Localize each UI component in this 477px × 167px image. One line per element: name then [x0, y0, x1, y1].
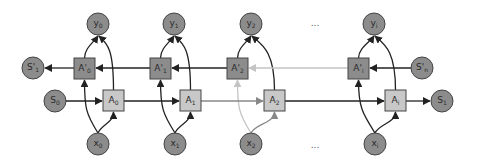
edge-forward-to-output	[99, 36, 114, 90]
edge-input-to-forward	[251, 112, 275, 133]
input-node-x2: x2	[240, 133, 262, 155]
bidirectional-rnn-diagram: y0A'0A0x0y1A'1A1x1y2A'2A2x2yiA'iAixiS'1S…	[0, 0, 477, 167]
edge-forward-to-output	[252, 36, 275, 90]
edge-backward-to-output	[359, 36, 375, 58]
state-node-s-prime-n: S'n	[411, 57, 433, 79]
output-node-y0: y0	[87, 13, 109, 35]
output-node-y1: y1	[163, 13, 185, 35]
edges-layer	[45, 36, 430, 133]
ellipsis-0: ...	[311, 18, 320, 28]
output-node-y2: y2	[240, 13, 262, 35]
edge-input-to-forward	[175, 112, 191, 133]
ellipsis-1: ...	[311, 140, 320, 150]
backward-cell-a-prime2: A'2	[227, 58, 248, 79]
edge-input-to-forward	[98, 112, 114, 133]
input-node-x0: x0	[87, 133, 109, 155]
state-node-s0: S0	[44, 90, 66, 112]
forward-cell-a0: A0	[103, 90, 124, 111]
edge-backward-to-output	[161, 36, 175, 58]
edge-input-to-backward	[161, 80, 176, 133]
edge-input-to-backward	[85, 80, 99, 133]
input-node-x1: x1	[164, 133, 186, 155]
backward-cell-a-prime0: A'0	[74, 58, 95, 79]
edge-forward-to-output	[375, 36, 396, 90]
edge-input-to-backward	[238, 80, 252, 133]
output-node-yi: yi	[363, 13, 385, 35]
edge-backward-to-output	[238, 36, 252, 58]
diagram-canvas: y0A'0A0x0y1A'1A1x1y2A'2A2x2yiA'iAixiS'1S…	[0, 0, 477, 167]
backward-cell-a-primei: A'i	[348, 58, 369, 79]
state-node-s-prime-1: S'1	[22, 57, 44, 79]
state-node-s1: S1	[431, 90, 453, 112]
edge-input-to-backward	[359, 80, 376, 133]
input-node-xi: xi	[364, 133, 386, 155]
edge-forward-to-output	[175, 36, 191, 90]
forward-cell-ai: Ai	[385, 90, 406, 111]
edge-input-to-forward	[375, 112, 396, 133]
forward-cell-a1: A1	[180, 90, 201, 111]
forward-cell-a2: A2	[264, 90, 285, 111]
backward-cell-a-prime1: A'1	[150, 58, 171, 79]
edge-backward-to-output	[85, 36, 99, 58]
